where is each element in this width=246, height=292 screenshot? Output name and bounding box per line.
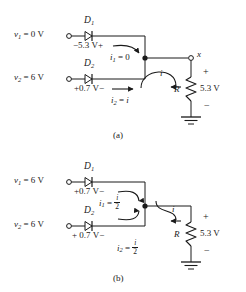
- diode-d2-label-b: D2: [84, 206, 94, 216]
- diode-d2-drop-label-b: + 0.7 V−: [72, 231, 104, 240]
- current-i1-label-b: i1 = i2: [99, 194, 120, 210]
- node-x-label-a: x: [197, 50, 201, 59]
- diode-d1-label-b: D1: [84, 162, 94, 172]
- wire-node-to-resistor-b: [145, 206, 191, 262]
- polarity-plus-a: +: [203, 67, 209, 77]
- current-i1-label-a: i1 = 0: [110, 53, 130, 63]
- resistor-symbol-b: [186, 222, 196, 246]
- diode-d2-label-a: D2: [84, 59, 94, 69]
- polarity-minus-a: −: [204, 101, 210, 111]
- current-arrow-i-a: [141, 72, 176, 88]
- branch-current-label-a: i: [160, 69, 163, 78]
- wire-node-to-x-a: [145, 56, 193, 61]
- resistor-label-a: R: [174, 85, 180, 94]
- resistor-symbol-a: [186, 77, 196, 101]
- diode-d2-drop-label-a: +0.7 V−: [74, 84, 104, 93]
- wire-bottom-branch-a: [67, 58, 145, 81]
- output-voltage-label-b: 5.3 V: [200, 229, 220, 238]
- current-arrow-i2-b: [118, 211, 139, 220]
- current-arrow-i1-b: [118, 191, 139, 201]
- polarity-plus-b: +: [203, 212, 209, 222]
- circuit-figure: v1 = 0 V v2 = 6 V D1 −5.3 V+ D2 +0.7 V− …: [0, 0, 246, 292]
- diode-d1-drop-label-a: −5.3 V+: [73, 41, 103, 50]
- resistor-label-b: R: [174, 230, 180, 239]
- source-v1-label-a: v1 = 0 V: [14, 30, 44, 40]
- diode-d1-label-a: D1: [84, 16, 94, 26]
- source-v2-label-a: v2 = 6 V: [14, 73, 44, 83]
- output-voltage-label-a: 5.3 V: [200, 84, 220, 93]
- current-i2-label-b: i2 = i2: [117, 239, 138, 255]
- caption-b: (b): [113, 274, 124, 283]
- branch-current-label-b: i: [172, 205, 175, 214]
- ground-symbol-b: [181, 262, 201, 269]
- current-i2-label-a: i2 = i: [111, 96, 129, 106]
- source-v2-label-b: v2 = 6 V: [14, 220, 44, 230]
- polarity-minus-b: −: [204, 246, 210, 256]
- source-v1-label-b: v1 = 6 V: [14, 176, 44, 186]
- caption-a: (a): [113, 131, 123, 140]
- ground-symbol-a: [181, 117, 201, 124]
